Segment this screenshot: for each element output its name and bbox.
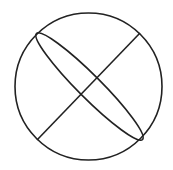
- diagonal-line: [37, 33, 140, 140]
- geometric-diagram: [0, 0, 173, 170]
